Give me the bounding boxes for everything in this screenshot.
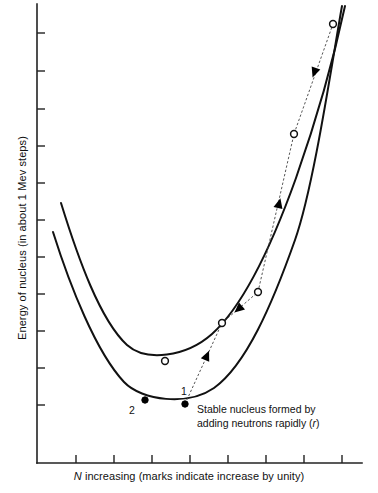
x-axis-ticks — [76, 455, 342, 463]
x-axis-label-text: increasing (marks indicate increase by u… — [82, 470, 304, 482]
y-axis-label: Energy of nucleus (in about 1 Mev steps) — [16, 136, 28, 340]
marker-stable-nucleus-point-2 — [142, 397, 148, 403]
arrow-up-right-icon — [274, 197, 285, 209]
arrow-down-left-icon — [308, 66, 320, 79]
marker-zigzag-node-a — [219, 320, 226, 327]
caption-line-2: adding neutrons rapidly (r) — [197, 416, 320, 430]
marker-stable-nucleus-point-1 — [182, 401, 188, 407]
open-circle-markers — [162, 21, 337, 365]
figure-root: Energy of nucleus (in about 1 Mev steps)… — [0, 0, 378, 493]
upper-parabola-curve — [61, 6, 345, 355]
marker-zigzag-node-d — [330, 21, 337, 28]
x-axis-label: N increasing (marks indicate increase by… — [0, 470, 378, 482]
caption-line-2-prefix: adding neutrons rapidly ( — [197, 417, 313, 429]
caption-line-1: Stable nucleus formed by — [197, 402, 320, 416]
r-process-zigzag-path — [185, 24, 333, 404]
x-axis-label-symbol: N — [74, 470, 82, 482]
marker-upper-curve-minimum — [162, 358, 169, 365]
y-axis-ticks — [37, 33, 45, 405]
stable-nucleus-caption: Stable nucleus formed by adding neutrons… — [197, 402, 320, 430]
arrow-up-right-icon — [201, 349, 213, 362]
point-label-2: 2 — [129, 404, 135, 416]
lower-parabola-curve — [53, 6, 342, 399]
marker-zigzag-node-b — [255, 289, 262, 296]
caption-line-2-suffix: ) — [316, 417, 320, 429]
marker-zigzag-node-c — [291, 131, 298, 138]
point-label-1: 1 — [181, 385, 187, 397]
plot-canvas — [0, 0, 378, 493]
